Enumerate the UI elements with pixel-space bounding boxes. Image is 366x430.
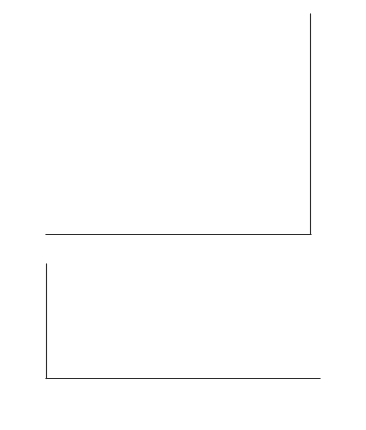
figure-canvas	[0, 0, 366, 430]
chromatography-figure	[0, 0, 366, 430]
top-panel-absorbance-chart	[46, 14, 345, 235]
bottom-panel-radioactivity-chart	[16, 264, 320, 379]
